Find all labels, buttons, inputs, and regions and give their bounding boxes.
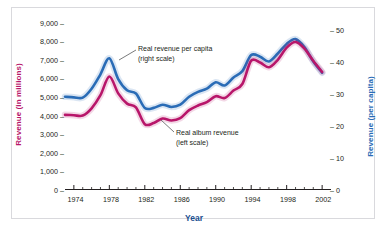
blue-leader-line xyxy=(119,50,136,60)
chart-plot-area xyxy=(0,0,388,230)
chart-figure: Revenue (in millions) Revenue (per capit… xyxy=(0,0,388,230)
x-axis-ticks xyxy=(74,185,322,190)
series-lines xyxy=(65,39,322,125)
series-halo-red xyxy=(65,42,322,125)
